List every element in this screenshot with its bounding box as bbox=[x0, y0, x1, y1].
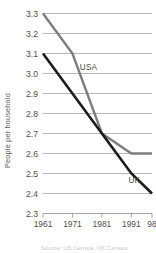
y-tick-label: 3.1 bbox=[26, 49, 38, 59]
y-tick-label: 2.6 bbox=[26, 149, 38, 159]
household-size-line-chart: 2.32.42.52.62.72.82.93.03.13.23.3 196119… bbox=[0, 0, 156, 253]
x-tick-label: 98 bbox=[147, 219, 156, 229]
source-note: Source: US Census, UK Census bbox=[41, 245, 127, 251]
x-axis-tick-labels: 196119711981199198 bbox=[34, 219, 156, 229]
x-axis-tickmarks bbox=[43, 214, 152, 218]
series-label-uk: UK bbox=[128, 176, 140, 185]
chart-canvas: 2.32.42.52.62.72.82.93.03.13.23.3 196119… bbox=[0, 0, 156, 253]
x-tick-label: 1971 bbox=[63, 219, 82, 229]
x-tick-label: 1981 bbox=[93, 219, 112, 229]
y-tick-label: 2.5 bbox=[26, 169, 38, 179]
y-tick-label: 3.3 bbox=[26, 9, 38, 19]
y-axis-title: People per household bbox=[3, 93, 12, 168]
series-line-usa bbox=[43, 14, 152, 154]
series-label-usa: USA bbox=[80, 63, 98, 72]
y-tick-label: 2.3 bbox=[26, 209, 38, 219]
y-axis-tick-labels: 2.32.42.52.62.72.82.93.03.13.23.3 bbox=[26, 9, 38, 219]
y-tick-label: 2.9 bbox=[26, 89, 38, 99]
data-series bbox=[43, 14, 152, 194]
y-tick-label: 3.0 bbox=[26, 69, 38, 79]
x-tick-label: 1961 bbox=[34, 219, 53, 229]
y-tick-label: 3.2 bbox=[26, 29, 38, 39]
gridlines bbox=[43, 14, 152, 194]
y-tick-label: 2.4 bbox=[26, 189, 38, 199]
x-tick-label: 1991 bbox=[122, 219, 141, 229]
y-tick-label: 2.7 bbox=[26, 129, 38, 139]
y-tick-label: 2.8 bbox=[26, 109, 38, 119]
series-inline-labels: USAUK bbox=[80, 63, 141, 185]
